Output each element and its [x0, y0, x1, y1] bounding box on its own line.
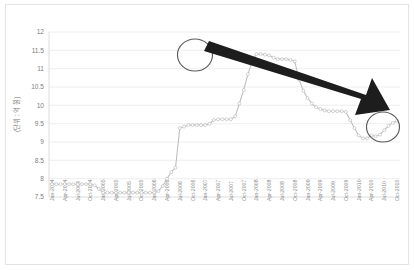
data-point-marker	[76, 183, 79, 186]
x-tick-label: Jan-2006	[151, 179, 157, 201]
data-point-marker	[178, 127, 181, 130]
data-point-marker	[93, 184, 96, 187]
data-point-marker	[157, 190, 160, 193]
data-point-marker	[161, 185, 164, 188]
data-point-marker	[361, 137, 364, 140]
data-point-marker	[234, 115, 237, 118]
data-point-marker	[366, 137, 369, 140]
data-point-marker	[357, 134, 360, 137]
data-point-marker	[80, 183, 83, 186]
data-point-marker	[51, 183, 54, 186]
data-point-marker	[340, 110, 343, 113]
data-point-marker	[344, 110, 347, 113]
data-point-marker	[319, 108, 322, 111]
chart-image: 1211.51110.5109.598.587.5 (단위 : 억 원) Jan…	[0, 0, 414, 270]
data-point-marker	[268, 54, 271, 57]
data-point-marker	[285, 58, 288, 61]
y-tick-label: 8	[40, 175, 44, 182]
x-tick-label: Jul-2006	[177, 181, 183, 201]
data-point-marker	[225, 118, 228, 121]
data-point-marker	[281, 58, 284, 61]
data-point-marker	[97, 187, 100, 190]
x-tick-label: Jan-2008	[253, 179, 259, 201]
data-point-marker	[59, 183, 62, 186]
x-tick-label: Jul-2007	[228, 181, 234, 201]
data-point-marker	[246, 73, 249, 76]
x-tick-label: Jul-2009	[330, 181, 336, 201]
x-tick-label: Apr-2005	[113, 180, 119, 201]
x-tick-label: Oct-2008	[292, 180, 298, 201]
data-point-marker	[148, 191, 151, 194]
x-axis-tick-labels: Jan-2004Apr-2004Jul-2004Oct-2004Jan-2005…	[49, 179, 400, 201]
data-point-marker	[153, 191, 156, 194]
y-axis-tick-labels: 1211.51110.5109.598.587.5	[31, 28, 44, 200]
y-tick-label: 7.5	[35, 193, 44, 200]
data-point-marker	[336, 110, 339, 113]
data-point-marker	[170, 171, 173, 174]
data-point-marker	[140, 191, 143, 194]
data-point-marker	[353, 127, 356, 130]
y-tick-label: 9.5	[35, 120, 44, 127]
data-point-marker	[204, 124, 207, 127]
data-point-marker	[255, 53, 258, 56]
x-tick-label: Apr-2008	[266, 180, 272, 201]
data-point-marker	[263, 53, 266, 56]
data-point-marker	[383, 129, 386, 132]
decline-trend-arrow	[204, 41, 390, 115]
data-point-marker	[166, 177, 169, 180]
data-point-marker	[289, 58, 292, 61]
data-point-marker	[195, 124, 198, 127]
data-point-marker	[85, 183, 88, 186]
data-point-marker	[293, 60, 296, 63]
y-tick-label: 12	[37, 28, 45, 35]
data-point-marker	[327, 110, 330, 113]
x-tick-label: Jan-2009	[305, 179, 311, 201]
x-tick-label: Jan-2007	[202, 179, 208, 201]
line-chart-canvas: 1211.51110.5109.598.587.5 (단위 : 억 원) Jan…	[0, 0, 414, 270]
x-tick-label: Oct-2006	[190, 180, 196, 201]
data-point-marker	[259, 53, 262, 56]
data-point-marker	[55, 183, 58, 186]
data-point-marker	[136, 191, 139, 194]
data-point-marker	[174, 166, 177, 169]
y-tick-label: 9	[40, 138, 44, 145]
x-tick-label: Oct-2009	[343, 180, 349, 201]
data-point-marker	[63, 183, 66, 186]
y-tick-label: 11	[37, 65, 44, 72]
x-tick-label: Oct-2007	[241, 180, 247, 201]
data-point-marker	[68, 183, 71, 186]
data-point-marker	[276, 58, 279, 61]
data-point-marker	[306, 97, 309, 100]
x-tick-label: Apr-2010	[368, 180, 374, 201]
data-point-marker	[127, 191, 130, 194]
x-tick-label: Jan-2010	[356, 179, 362, 201]
data-point-marker	[123, 191, 126, 194]
x-tick-label: Jul-2010	[381, 181, 387, 201]
data-point-marker	[349, 119, 352, 122]
data-point-marker	[310, 102, 313, 105]
x-tick-label: Oct-2010	[394, 180, 400, 201]
data-point-marker	[242, 88, 245, 91]
data-point-marker	[183, 125, 186, 128]
data-point-marker	[144, 191, 147, 194]
annotations-group	[178, 39, 400, 142]
data-point-marker	[119, 191, 122, 194]
x-tick-label: Apr-2007	[215, 180, 221, 201]
data-point-marker	[72, 183, 75, 186]
y-tick-label: 11.5	[32, 47, 45, 54]
data-point-marker	[212, 119, 215, 122]
data-point-marker	[374, 135, 377, 138]
data-point-marker	[378, 133, 381, 136]
data-point-marker	[200, 124, 203, 127]
data-point-marker	[238, 102, 241, 105]
data-point-marker	[187, 124, 190, 127]
data-point-marker	[131, 191, 134, 194]
y-tick-label: 8.5	[35, 157, 44, 164]
x-tick-label: Jul-2008	[279, 181, 285, 201]
data-point-marker	[106, 191, 109, 194]
x-tick-label: Apr-2009	[317, 180, 323, 201]
y-axis-title: (단위 : 억 원)	[12, 97, 21, 132]
data-point-marker	[191, 124, 194, 127]
data-point-marker	[114, 191, 117, 194]
data-point-marker	[229, 118, 232, 121]
